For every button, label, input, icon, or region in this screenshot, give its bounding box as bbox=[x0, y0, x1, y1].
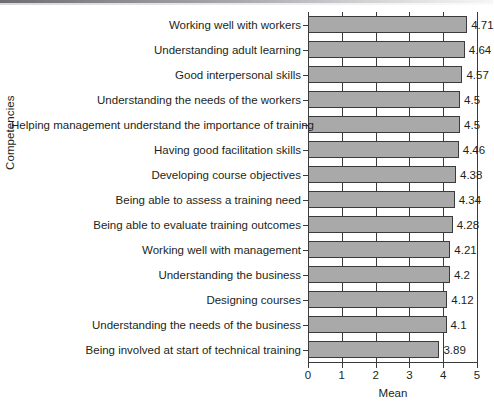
category-label: Working well with workers bbox=[11, 19, 301, 31]
bar[interactable] bbox=[308, 116, 460, 133]
value-label: 4.5 bbox=[464, 94, 480, 106]
x-tick-0 bbox=[308, 363, 309, 368]
bar[interactable] bbox=[308, 191, 455, 208]
y-tick bbox=[303, 150, 308, 151]
x-axis-line bbox=[308, 362, 478, 363]
value-label: 3.89 bbox=[443, 344, 465, 356]
value-label: 4.5 bbox=[464, 119, 480, 131]
category-label: Understanding the needs of the workers bbox=[11, 94, 301, 106]
gridline-0 bbox=[308, 12, 309, 362]
category-label: Being able to assess a training need bbox=[11, 194, 301, 206]
y-tick bbox=[303, 300, 308, 301]
y-tick bbox=[303, 250, 308, 251]
value-label: 4.12 bbox=[451, 294, 473, 306]
x-tick-3 bbox=[409, 363, 410, 368]
x-tick-label-5: 5 bbox=[465, 369, 489, 381]
category-label: Understanding the business bbox=[11, 269, 301, 281]
gridline-2 bbox=[376, 12, 377, 362]
y-tick bbox=[303, 275, 308, 276]
x-tick-label-0: 0 bbox=[296, 369, 320, 381]
x-tick-1 bbox=[342, 363, 343, 368]
y-tick bbox=[303, 25, 308, 26]
category-label: Developing course objectives bbox=[11, 169, 301, 181]
category-label: Being involved at start of technical tra… bbox=[11, 344, 301, 356]
x-tick-label-2: 2 bbox=[364, 369, 388, 381]
bar[interactable] bbox=[308, 66, 462, 83]
bar[interactable] bbox=[308, 16, 467, 33]
value-label: 4.21 bbox=[454, 244, 476, 256]
value-label: 4.34 bbox=[459, 194, 481, 206]
gridline-4 bbox=[443, 12, 444, 362]
x-tick-label-4: 4 bbox=[431, 369, 455, 381]
y-tick bbox=[303, 175, 308, 176]
value-label: 4.38 bbox=[460, 169, 482, 181]
bar[interactable] bbox=[308, 216, 453, 233]
category-label: Good interpersonal skills bbox=[11, 69, 301, 81]
value-label: 4.28 bbox=[457, 219, 479, 231]
x-tick-4 bbox=[443, 363, 444, 368]
y-tick bbox=[303, 100, 308, 101]
bar[interactable] bbox=[308, 91, 460, 108]
category-label: Designing courses bbox=[11, 294, 301, 306]
x-tick-label-1: 1 bbox=[330, 369, 354, 381]
category-label: Working well with management bbox=[11, 244, 301, 256]
category-label: Being able to evaluate training outcomes bbox=[11, 219, 301, 231]
y-tick bbox=[303, 50, 308, 51]
bar[interactable] bbox=[308, 166, 456, 183]
category-label: Having good facilitation skills bbox=[11, 144, 301, 156]
value-label: 4.71 bbox=[471, 19, 493, 31]
category-label: Understanding the needs of the business bbox=[11, 319, 301, 331]
bar[interactable] bbox=[308, 291, 447, 308]
bar[interactable] bbox=[308, 241, 450, 258]
y-tick bbox=[303, 200, 308, 201]
value-label: 4.57 bbox=[466, 69, 488, 81]
gridline-3 bbox=[409, 12, 410, 362]
gridline-5 bbox=[477, 12, 478, 362]
x-axis-title: Mean bbox=[308, 387, 478, 399]
y-tick bbox=[303, 350, 308, 351]
value-label: 4.64 bbox=[469, 44, 491, 56]
category-label: Helping management understand the import… bbox=[11, 119, 301, 131]
y-tick bbox=[303, 325, 308, 326]
value-label: 4.2 bbox=[454, 269, 470, 281]
y-tick bbox=[303, 75, 308, 76]
value-label: 4.1 bbox=[451, 319, 467, 331]
bar[interactable] bbox=[308, 141, 459, 158]
category-label: Understanding adult learning bbox=[11, 44, 301, 56]
y-tick bbox=[303, 225, 308, 226]
value-label: 4.46 bbox=[463, 144, 485, 156]
bar[interactable] bbox=[308, 266, 450, 283]
x-tick-label-3: 3 bbox=[397, 369, 421, 381]
plot-area bbox=[308, 12, 477, 362]
gridline-1 bbox=[342, 12, 343, 362]
bar[interactable] bbox=[308, 341, 439, 358]
bar[interactable] bbox=[308, 41, 465, 58]
x-tick-2 bbox=[376, 363, 377, 368]
x-tick-5 bbox=[477, 363, 478, 368]
bar[interactable] bbox=[308, 316, 447, 333]
